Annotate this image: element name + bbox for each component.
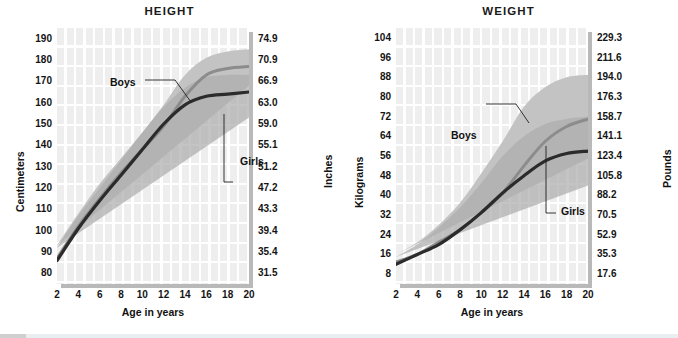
- weight-plot-canvas: [396, 28, 588, 284]
- height-plot-canvas: [57, 28, 249, 284]
- y-axis-left-tick: 180: [22, 55, 52, 65]
- y-axis-left-tick: 48: [361, 171, 391, 181]
- y-axis-left-tick: 150: [22, 119, 52, 129]
- y-axis-left-tick: 16: [361, 249, 391, 259]
- height-girls-label: Girls: [240, 155, 264, 167]
- y-axis-right-tick: 31.5: [258, 268, 302, 278]
- y-axis-right-tick: 52.9: [597, 230, 641, 240]
- weight-y-axis-right-title: Pounds: [661, 150, 673, 189]
- y-axis-right-tick: 35.3: [597, 249, 641, 259]
- y-axis-left-tick: 130: [22, 162, 52, 172]
- girls-range-band: [57, 75, 249, 248]
- growth-charts-figure: HEIGHT Centimeters Inches Age in years 1…: [0, 0, 678, 338]
- y-axis-left-tick: 104: [361, 33, 391, 43]
- y-axis-left-tick: 90: [22, 247, 52, 257]
- y-axis-left-tick: 40: [361, 190, 391, 200]
- y-axis-left-tick: 140: [22, 140, 52, 150]
- x-axis-tick: 20: [235, 290, 263, 300]
- y-axis-left-tick: 24: [361, 230, 391, 240]
- y-axis-left-tick: 100: [22, 226, 52, 236]
- y-axis-right-tick: 74.9: [258, 34, 302, 44]
- height-y-axis-left-title: Centimeters: [14, 151, 26, 212]
- y-axis-right-tick: 39.4: [258, 226, 302, 236]
- y-axis-right-tick: 70.5: [597, 210, 641, 220]
- y-axis-right-tick: 55.1: [258, 140, 302, 150]
- y-axis-right-tick: 63.0: [258, 98, 302, 108]
- height-series-svg: [57, 28, 249, 284]
- weight-chart-panel: WEIGHT Kilograms Pounds Age in years 104…: [339, 0, 678, 338]
- y-axis-right-tick: 105.8: [597, 171, 641, 181]
- x-axis-tick: 20: [574, 290, 602, 300]
- y-axis-right-tick: 47.2: [258, 183, 302, 193]
- height-y-axis-right-title: Inches: [322, 155, 334, 188]
- footer-rule: [0, 334, 678, 338]
- y-axis-right-tick: 211.6: [597, 53, 641, 63]
- weight-chart-title: WEIGHT: [339, 5, 678, 17]
- y-axis-left-tick: 8: [361, 269, 391, 279]
- weight-x-axis-title: Age in years: [396, 306, 588, 318]
- y-axis-right-tick: 88.2: [597, 190, 641, 200]
- y-axis-right-tick: 66.9: [258, 76, 302, 86]
- height-chart-title: HEIGHT: [0, 5, 339, 17]
- y-axis-left-tick: 96: [361, 53, 391, 63]
- y-axis-right-tick: 51.2: [258, 162, 302, 172]
- y-axis-right-tick: 43.3: [258, 204, 302, 214]
- y-axis-right-tick: 141.1: [597, 131, 641, 141]
- y-axis-right-tick: 194.0: [597, 72, 641, 82]
- weight-boys-label: Boys: [451, 129, 477, 141]
- height-x-axis-title: Age in years: [57, 306, 249, 318]
- y-axis-left-tick: 160: [22, 98, 52, 108]
- y-axis-right-tick: 59.0: [258, 119, 302, 129]
- height-boys-label: Boys: [110, 76, 136, 88]
- y-axis-left-tick: 72: [361, 112, 391, 122]
- y-axis-right-tick: 229.3: [597, 33, 641, 43]
- y-axis-left-tick: 110: [22, 204, 52, 214]
- weight-girls-label: Girls: [561, 205, 585, 217]
- y-axis-left-tick: 88: [361, 72, 391, 82]
- y-axis-right-tick: 158.7: [597, 112, 641, 122]
- height-plot-area: [57, 28, 249, 284]
- y-axis-right-tick: 35.4: [258, 247, 302, 257]
- height-chart-panel: HEIGHT Centimeters Inches Age in years 1…: [0, 0, 339, 338]
- y-axis-right-tick: 123.4: [597, 151, 641, 161]
- y-axis-left-tick: 80: [22, 268, 52, 278]
- y-axis-left-tick: 80: [361, 92, 391, 102]
- y-axis-left-tick: 120: [22, 183, 52, 193]
- y-axis-left-tick: 32: [361, 210, 391, 220]
- y-axis-left-tick: 170: [22, 76, 52, 86]
- girls-range-band: [396, 117, 588, 257]
- y-axis-left-tick: 64: [361, 131, 391, 141]
- y-axis-right-tick: 70.9: [258, 55, 302, 65]
- y-axis-right-tick: 176.3: [597, 92, 641, 102]
- y-axis-left-tick: 190: [22, 34, 52, 44]
- y-axis-right-tick: 17.6: [597, 269, 641, 279]
- weight-plot-area: [396, 28, 588, 284]
- y-axis-left-tick: 56: [361, 151, 391, 161]
- weight-series-svg: [396, 28, 588, 284]
